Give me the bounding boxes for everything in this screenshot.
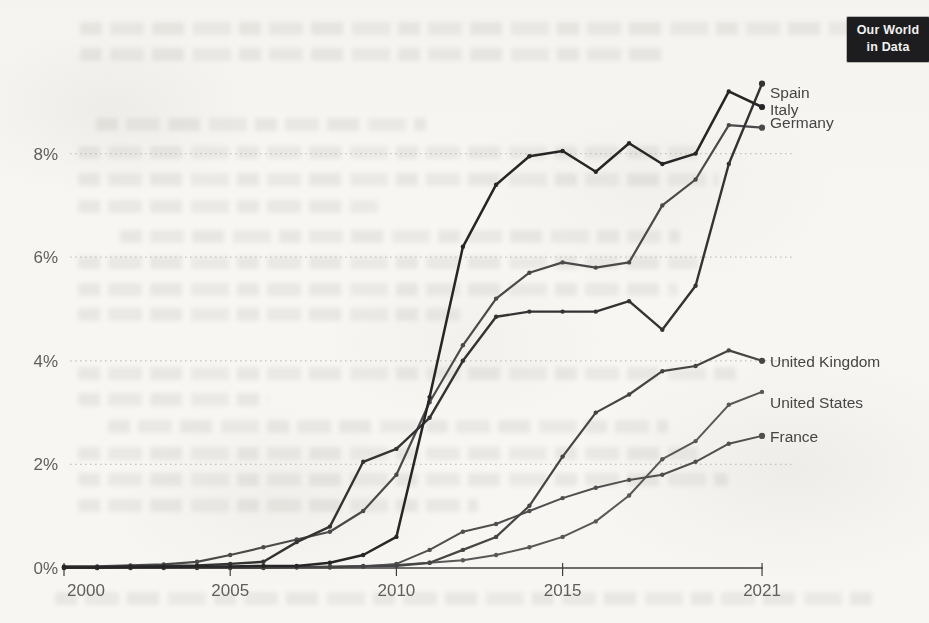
data-point-united-kingdom bbox=[627, 392, 631, 396]
series-path-france bbox=[64, 436, 762, 568]
series-label-united-kingdom: United Kingdom bbox=[770, 353, 880, 370]
data-point-germany bbox=[394, 473, 398, 477]
data-point-united-kingdom bbox=[494, 535, 498, 539]
end-dot-spain bbox=[759, 81, 765, 87]
data-point-spain bbox=[594, 309, 598, 313]
data-point-united-states bbox=[594, 519, 598, 523]
data-point-italy bbox=[560, 149, 564, 153]
data-point-italy bbox=[62, 565, 66, 569]
data-point-italy bbox=[461, 245, 465, 249]
owid-badge-line2: in Data bbox=[849, 39, 927, 56]
y-tick-label-0%: 0% bbox=[33, 559, 58, 578]
series-path-united-states bbox=[64, 392, 762, 568]
data-point-italy bbox=[427, 395, 431, 399]
series-label-united-states: United States bbox=[770, 394, 863, 411]
data-point-united-kingdom bbox=[693, 364, 697, 368]
data-point-spain bbox=[295, 540, 299, 544]
data-point-italy bbox=[328, 561, 332, 565]
data-point-germany bbox=[560, 260, 564, 264]
data-point-germany bbox=[527, 271, 531, 275]
owid-badge-line1: Our World bbox=[849, 22, 927, 39]
data-point-spain bbox=[693, 284, 697, 288]
data-point-germany bbox=[228, 553, 232, 557]
series-line-germany: Germany bbox=[62, 114, 834, 568]
data-point-united-kingdom bbox=[461, 548, 465, 552]
series-label-france: France bbox=[770, 428, 818, 445]
data-point-italy bbox=[162, 565, 166, 569]
data-point-spain bbox=[328, 524, 332, 528]
data-point-united-states bbox=[627, 493, 631, 497]
data-point-italy bbox=[394, 535, 398, 539]
data-point-spain bbox=[727, 162, 731, 166]
y-tick-label-2%: 2% bbox=[33, 455, 58, 474]
data-point-germany bbox=[261, 545, 265, 549]
data-point-france bbox=[660, 473, 664, 477]
data-point-spain bbox=[427, 416, 431, 420]
data-point-france bbox=[693, 460, 697, 464]
series-line-united-kingdom: United Kingdom bbox=[62, 348, 880, 570]
series-line-italy: Italy bbox=[62, 89, 799, 570]
data-point-germany bbox=[627, 260, 631, 264]
x-tick-label-2000: 2000 bbox=[67, 581, 105, 600]
data-point-united-kingdom bbox=[594, 410, 598, 414]
data-point-united-states bbox=[461, 558, 465, 562]
data-point-france bbox=[727, 442, 731, 446]
y-tick-label-6%: 6% bbox=[33, 248, 58, 267]
data-point-italy bbox=[727, 89, 731, 93]
series-path-spain bbox=[64, 84, 762, 567]
data-point-france bbox=[527, 509, 531, 513]
x-tick-label-2005: 2005 bbox=[211, 581, 249, 600]
data-point-united-kingdom bbox=[328, 565, 332, 569]
data-point-italy bbox=[660, 162, 664, 166]
data-point-spain bbox=[560, 309, 564, 313]
data-point-united-kingdom bbox=[527, 504, 531, 508]
data-point-germany bbox=[361, 509, 365, 513]
data-point-united-states bbox=[560, 535, 564, 539]
data-point-united-states bbox=[760, 390, 764, 394]
data-point-united-kingdom bbox=[660, 369, 664, 373]
data-point-italy bbox=[594, 170, 598, 174]
owid-badge: Our World in Data bbox=[847, 17, 929, 62]
series-line-united-states: United States bbox=[62, 390, 864, 570]
solar-share-line-chart: 0%2%4%6%8%20002005201020152021United Sta… bbox=[0, 0, 929, 623]
data-point-united-states bbox=[693, 439, 697, 443]
data-point-italy bbox=[693, 151, 697, 155]
data-point-united-kingdom bbox=[427, 561, 431, 565]
data-point-united-kingdom bbox=[560, 454, 564, 458]
series-path-germany bbox=[64, 125, 762, 566]
data-point-italy bbox=[195, 564, 199, 568]
series-path-italy bbox=[64, 91, 762, 567]
data-point-united-kingdom bbox=[394, 564, 398, 568]
y-tick-label-8%: 8% bbox=[33, 145, 58, 164]
series-label-italy: Italy bbox=[770, 101, 799, 118]
data-point-france bbox=[461, 530, 465, 534]
scanned-chart-page: 0%2%4%6%8%20002005201020152021United Sta… bbox=[0, 0, 929, 623]
data-point-united-states bbox=[727, 403, 731, 407]
data-point-spain bbox=[494, 315, 498, 319]
data-point-italy bbox=[361, 553, 365, 557]
data-point-germany bbox=[328, 530, 332, 534]
data-point-italy bbox=[527, 154, 531, 158]
data-point-spain bbox=[627, 299, 631, 303]
end-dot-germany bbox=[759, 125, 765, 131]
data-point-germany bbox=[693, 177, 697, 181]
x-tick-label-2021: 2021 bbox=[743, 581, 781, 600]
data-point-france bbox=[560, 496, 564, 500]
x-tick-label-2015: 2015 bbox=[544, 581, 582, 600]
data-point-germany bbox=[660, 203, 664, 207]
data-point-france bbox=[494, 522, 498, 526]
data-point-italy bbox=[228, 564, 232, 568]
series-label-spain: Spain bbox=[770, 84, 810, 101]
data-point-italy bbox=[128, 565, 132, 569]
data-point-germany bbox=[727, 123, 731, 127]
data-point-spain bbox=[361, 460, 365, 464]
data-point-italy bbox=[627, 141, 631, 145]
data-point-italy bbox=[295, 564, 299, 568]
end-dot-united-kingdom bbox=[759, 358, 765, 364]
data-point-united-states bbox=[660, 457, 664, 461]
y-tick-label-4%: 4% bbox=[33, 352, 58, 371]
series-path-united-kingdom bbox=[64, 350, 762, 568]
data-point-united-kingdom bbox=[727, 348, 731, 352]
data-point-italy bbox=[494, 183, 498, 187]
data-point-united-states bbox=[527, 545, 531, 549]
